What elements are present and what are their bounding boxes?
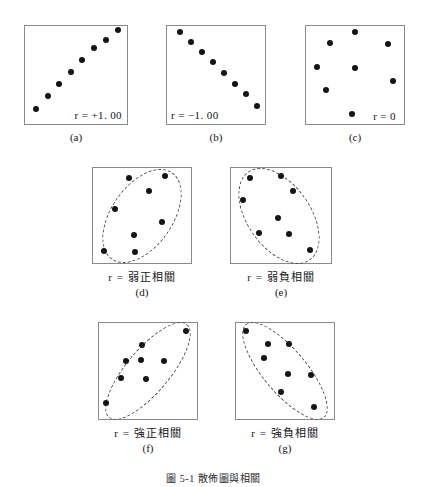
data-point <box>308 372 314 378</box>
data-point <box>221 70 227 76</box>
panel-g <box>235 322 335 420</box>
data-point <box>278 389 284 395</box>
panel-e-plot-area <box>230 167 332 264</box>
panel-g-letter: (g) <box>235 442 335 454</box>
panel-d-plot-area <box>92 167 192 264</box>
panel-f-letter: (f) <box>98 442 198 454</box>
figure-caption: 圖 5-1 散佈圖與相關 <box>0 470 427 485</box>
panel-b-letter: (b) <box>166 131 266 143</box>
panel-f-plot-area <box>98 322 198 420</box>
panel-f-correlation-ellipse <box>98 322 198 420</box>
data-point <box>352 65 358 71</box>
panel-c-letter: (c) <box>305 131 405 143</box>
data-point <box>188 39 194 45</box>
panel-e-r-value: r = 弱負相關 <box>211 268 351 284</box>
panel-f <box>98 322 198 420</box>
data-point <box>256 230 262 236</box>
data-point <box>210 59 216 65</box>
data-point <box>323 87 329 93</box>
data-point <box>349 111 355 117</box>
panel-b-r-value: r = −1. 00 <box>171 109 219 121</box>
data-point <box>385 41 391 47</box>
data-point <box>183 328 189 334</box>
data-point <box>131 232 137 238</box>
data-point <box>115 27 121 33</box>
panel-a: r = +1. 00 <box>24 25 128 125</box>
panel-d-letter: (d) <box>92 286 192 298</box>
panel-g-r-value: r = 強負相關 <box>215 424 355 440</box>
data-point <box>91 45 97 51</box>
panel-c-r-value: r = 0 <box>373 110 396 122</box>
panel-d-r-value: r = 弱正相關 <box>72 268 212 284</box>
data-point <box>254 103 260 109</box>
panel-b: r = −1. 00 <box>166 25 266 125</box>
data-point <box>314 64 320 70</box>
data-point <box>79 57 85 63</box>
data-point <box>286 231 292 237</box>
panel-d <box>92 167 192 264</box>
data-point <box>45 93 51 99</box>
data-point <box>68 69 74 75</box>
data-point <box>118 375 124 381</box>
data-point <box>243 91 249 97</box>
panel-g-plot-area <box>235 322 335 420</box>
panel-d-correlation-ellipse <box>92 167 192 264</box>
correlation-scatterplot-figure: r = +1. 00 (a) r = −1. 00 (b) <box>0 0 427 487</box>
data-point <box>199 49 205 55</box>
data-point <box>243 328 249 334</box>
panel-a-letter: (a) <box>24 131 128 143</box>
panel-c: r = 0 <box>305 25 405 125</box>
data-point <box>162 173 168 179</box>
data-point <box>307 247 313 253</box>
data-point <box>33 106 39 112</box>
data-point <box>285 371 291 377</box>
data-point <box>112 206 118 212</box>
data-point <box>143 376 149 382</box>
panel-a-r-value: r = +1. 00 <box>74 109 122 121</box>
data-point <box>390 78 396 84</box>
panel-e-correlation-ellipse <box>230 167 332 264</box>
data-point <box>177 29 183 35</box>
panel-e-letter: (e) <box>230 286 332 298</box>
data-point <box>232 81 238 87</box>
data-point <box>327 40 333 46</box>
data-point <box>278 173 284 179</box>
data-point <box>126 175 132 181</box>
data-point <box>56 81 62 87</box>
data-point <box>103 37 109 43</box>
panel-e <box>230 167 332 264</box>
panel-f-r-value: r = 強正相關 <box>78 424 218 440</box>
data-point <box>352 29 358 35</box>
